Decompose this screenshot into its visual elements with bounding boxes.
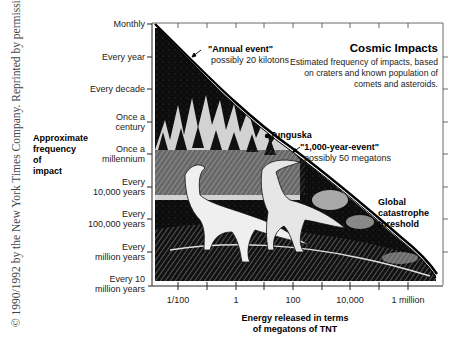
x-tick-1-million: 1 million [391,295,424,305]
y-axis-ticks-right [443,57,448,252]
x-tick-one-hundredth: 1/100 [167,295,190,305]
x-axis-ticks-top [178,23,408,28]
chart-subtitle: Estimated frequency of impacts, based on… [288,57,438,90]
tunguska-label: Tunguska [270,130,312,140]
y-axis-ticks [147,24,152,252]
annual-event-annotation: "Annual event" possibly 20 kilotons [208,44,289,66]
tunguska-marker [265,134,269,138]
x-axis-title: Energy released in terms of megatons of … [230,313,360,335]
chart-title: Cosmic Impacts [350,42,438,54]
global-catastrophe-label: Global catastrophe threshold [378,197,429,230]
x-tick-1: 1 [233,295,238,305]
x-tick-100: 100 [285,295,300,305]
thousand-year-annotation: "1,000-year-event" possibly 50 megatons [300,142,391,164]
x-tick-10000: 10,000 [336,295,364,305]
